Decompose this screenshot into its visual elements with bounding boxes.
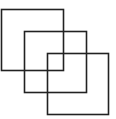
overlapping-squares-diagram bbox=[0, 0, 116, 119]
square-1 bbox=[2, 10, 64, 71]
square-2 bbox=[25, 32, 87, 93]
square-3 bbox=[48, 54, 109, 115]
